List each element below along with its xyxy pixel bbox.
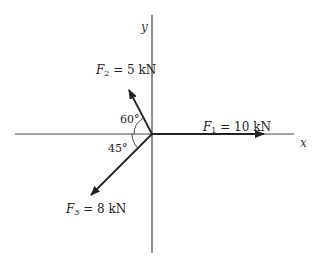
f1-label: F1 = 10 kN xyxy=(203,121,271,135)
x-axis-label: x xyxy=(300,137,307,149)
force-diagram xyxy=(0,0,328,266)
f2-vector xyxy=(129,90,152,134)
angle-arc-45 xyxy=(132,134,138,148)
f2-value: 5 kN xyxy=(127,63,156,77)
angle-60-label: 60° xyxy=(120,114,140,125)
f1-value: 10 kN xyxy=(234,120,271,134)
f2-eq: = xyxy=(109,63,127,77)
f3-eq: = xyxy=(79,202,97,216)
f1-eq: = xyxy=(216,120,234,134)
y-axis-label: y xyxy=(141,21,148,33)
angle-45-label: 45° xyxy=(108,143,128,154)
f3-value: 8 kN xyxy=(97,202,126,216)
f2-label: F2 = 5 kN xyxy=(96,64,156,78)
f3-label: F3 = 8 kN xyxy=(66,203,126,217)
